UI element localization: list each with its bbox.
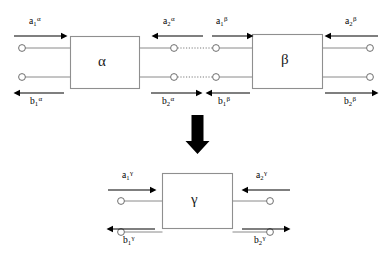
label-b2-gamma: b2γ bbox=[254, 236, 265, 246]
label-b1-alpha: b1α bbox=[30, 97, 42, 107]
port-alpha-in-bottom bbox=[19, 74, 26, 81]
arrowhead-b1-alpha bbox=[14, 90, 21, 96]
label-b1-gamma: b1γ bbox=[123, 236, 134, 246]
label-a2-alpha: a2α bbox=[163, 17, 175, 27]
arrowhead-a2-alpha bbox=[152, 33, 159, 39]
port-gamma-out-top bbox=[267, 198, 274, 205]
arrowhead-b1-beta bbox=[206, 90, 213, 96]
port-beta-in-bottom bbox=[213, 74, 220, 81]
label-a2-beta-sup: β bbox=[353, 15, 357, 23]
label-b2-alpha-sup: α bbox=[170, 95, 174, 103]
port-beta-out-bottom bbox=[367, 74, 374, 81]
label-b2-beta: b2β bbox=[344, 97, 356, 107]
label-a2-gamma: a2γ bbox=[256, 171, 267, 181]
label-a1-alpha: a1α bbox=[29, 17, 41, 27]
label-a1-beta: a1β bbox=[216, 17, 227, 27]
arrowhead-a2-beta bbox=[325, 33, 332, 39]
arrowhead-b2-alpha bbox=[196, 90, 203, 96]
label-b2-alpha: b2α bbox=[162, 97, 174, 107]
label-b1-gamma-sup: γ bbox=[131, 234, 134, 242]
port-beta-in-top bbox=[213, 45, 220, 52]
arrowhead-b1-gamma bbox=[107, 226, 114, 232]
arrowhead-b2-beta bbox=[372, 90, 379, 96]
label-b2-gamma-sup: γ bbox=[262, 234, 265, 242]
arrowhead-a1-gamma bbox=[150, 187, 157, 193]
label-a2-beta: a2β bbox=[345, 17, 356, 27]
label-b2-beta-sup: β bbox=[352, 95, 356, 103]
port-beta-out-top bbox=[367, 45, 374, 52]
label-b1-alpha-sup: α bbox=[38, 95, 42, 103]
port-alpha-out-bottom bbox=[171, 74, 178, 81]
label-a1-gamma: a1γ bbox=[122, 171, 133, 181]
arrowhead-b2-gamma bbox=[284, 226, 291, 232]
label-a1-beta-sup: β bbox=[224, 15, 228, 23]
arrowhead-a2-gamma bbox=[242, 187, 249, 193]
block-label-beta: β bbox=[281, 52, 289, 67]
diagram-canvas: α β γ a1α a2α a1β a2β b1α b2α b1β b2β a1… bbox=[0, 0, 392, 263]
diagram-vector-layer bbox=[0, 0, 392, 263]
label-a1-alpha-sup: α bbox=[37, 15, 41, 23]
label-a1-gamma-sup: γ bbox=[130, 169, 133, 177]
port-alpha-out-top bbox=[171, 45, 178, 52]
block-label-alpha: α bbox=[98, 54, 106, 69]
down-arrow-icon bbox=[186, 115, 210, 154]
port-gamma-in-top bbox=[118, 198, 125, 205]
label-a2-gamma-sup: γ bbox=[264, 169, 267, 177]
label-a2-alpha-sup: α bbox=[171, 15, 175, 23]
label-b1-beta-sup: β bbox=[226, 95, 230, 103]
port-alpha-in-top bbox=[19, 45, 26, 52]
label-b1-beta: b1β bbox=[218, 97, 230, 107]
port-gamma-out-bottom bbox=[267, 229, 274, 236]
arrowhead-a1-alpha bbox=[61, 33, 68, 39]
block-label-gamma: γ bbox=[191, 192, 198, 207]
